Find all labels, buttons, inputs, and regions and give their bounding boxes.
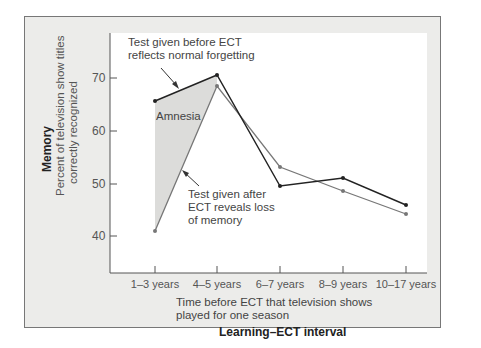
annotation-after: Test given after ECT reveals loss of mem… [188, 188, 275, 227]
y-tick-70: 70 [92, 71, 105, 85]
x-tick-5: 10–17 years [376, 278, 437, 290]
x-tick-1: 1–3 years [131, 278, 179, 290]
annotation-amnesia: Amnesia [156, 110, 201, 123]
x-axis-title: Learning–ECT interval [219, 325, 346, 339]
annotation-before: Test given before ECT reflects normal fo… [128, 36, 255, 62]
y-axis-title: Memory Percent of television show titles… [40, 36, 80, 196]
x-axis-subtitle: Time before ECT that television shows pl… [176, 296, 372, 322]
y-tick-60: 60 [92, 124, 105, 138]
x-tick-4: 8–9 years [319, 278, 367, 290]
y-tick-40: 40 [92, 229, 105, 243]
x-tick-2: 4–5 years [193, 278, 241, 290]
x-tick-3: 6–7 years [256, 278, 304, 290]
y-tick-50: 50 [92, 177, 105, 191]
